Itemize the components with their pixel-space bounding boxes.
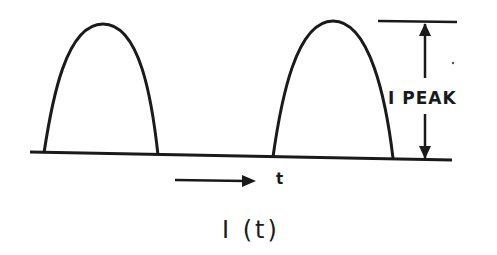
time-direction-arrow [175,180,246,181]
pulse-2 [273,21,393,158]
pulse-1 [44,24,158,155]
time-label: t [276,170,283,188]
diagram-caption: I (t) [222,216,280,244]
peak-current-label: I PEAK [387,88,458,108]
arrowhead-up-icon [419,23,431,36]
time-axis-baseline [30,152,452,160]
arrowhead-right-icon [242,175,256,187]
peak-reference-line [378,21,457,22]
scan-dot [452,62,454,64]
current-pulse-diagram: I PEAK t I (t) [0,0,497,255]
arrowhead-down-icon [419,146,431,159]
